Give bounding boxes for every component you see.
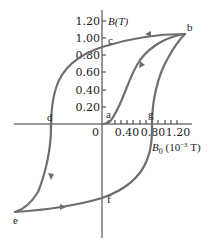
point-label-b: b [187, 21, 193, 33]
point-label-a: a [106, 108, 111, 120]
y-axis-title: B(T) [108, 15, 129, 28]
x-axis-title: B0 (10−3 T) [152, 141, 201, 156]
y-tick-label: 1.00 [76, 32, 101, 45]
initial-magnetization-curve [102, 34, 185, 124]
point-label-f: f [107, 193, 111, 205]
origin-label: 0 [92, 126, 99, 139]
hysteresis-curves [15, 34, 185, 212]
hysteresis-diagram: 0.20 0.40 0.60 0.80 1.00 1.20 0 0.40 0.8… [0, 0, 215, 245]
y-tick-label: 0.20 [76, 101, 101, 114]
y-tick-label: 0.80 [76, 49, 101, 62]
x-ticks [108, 120, 177, 124]
y-tick-label: 0.40 [76, 84, 101, 97]
point-label-d: d [47, 111, 53, 123]
arrow-icon [139, 61, 145, 68]
y-ticks [102, 21, 106, 107]
x-tick-label: 1.20 [166, 126, 191, 139]
descending-branch [15, 34, 185, 212]
point-label-c: c [108, 34, 113, 46]
x-tick-label: 0.40 [115, 126, 140, 139]
arrow-icon [48, 173, 54, 180]
point-label-g: g [148, 108, 154, 120]
arrow-icon [60, 204, 66, 210]
y-tick-label: 1.20 [76, 15, 101, 28]
y-tick-label: 0.60 [76, 66, 101, 79]
point-label-e: e [13, 214, 18, 226]
